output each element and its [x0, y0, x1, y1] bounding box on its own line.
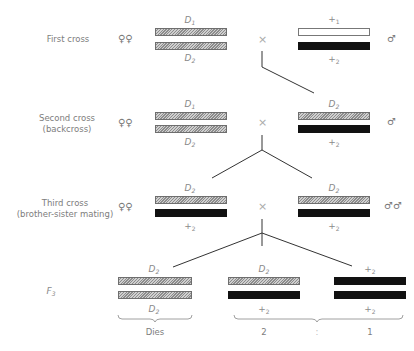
allele-bottom-left: D2 — [154, 53, 226, 66]
chromosome-bar-wildtype — [334, 277, 406, 285]
row-label-third-cross: Third cross (brother-sister mating) — [6, 198, 124, 220]
cross-symbol: × — [258, 116, 267, 129]
allele-top-right: D2 — [298, 99, 370, 112]
female-symbol: ♀♀ — [118, 117, 133, 128]
chromosome-bar-wildtype — [298, 125, 370, 133]
chromosome-bar-hatched — [298, 112, 370, 120]
allele-bottom-right: +2 — [298, 221, 370, 234]
chromosome-bar-wildtype — [155, 209, 227, 217]
f3-allele-bottom: +2 — [334, 304, 406, 317]
chromosome-bar-hatched — [155, 112, 227, 120]
chromosome-bar-hatched — [155, 28, 227, 36]
chromosome-bar-hatched — [118, 277, 192, 285]
row-label-subtext: (backcross) — [22, 124, 112, 135]
row-label-text: First cross — [47, 34, 90, 44]
f3-allele-bottom: D2 — [118, 304, 190, 317]
allele-top-right: D2 — [298, 183, 370, 196]
f3-generation-label: F3 — [36, 286, 66, 299]
female-symbol: ♀♀ — [118, 33, 133, 44]
ratio-separator: : — [312, 327, 322, 338]
f3-allele-bottom: +2 — [228, 304, 300, 317]
chromosome-bar-hatched — [118, 291, 192, 299]
line-third-right — [262, 233, 352, 266]
chromosome-bar-wildtype — [334, 291, 406, 299]
f3-outcome-dies: Dies — [118, 327, 192, 338]
female-symbol: ♀♀ — [118, 201, 133, 212]
line-second-left — [212, 150, 262, 178]
f3-allele-top: +2 — [334, 264, 406, 277]
line-third-left — [173, 233, 262, 267]
chromosome-bar-wildtype — [298, 209, 370, 217]
allele-top-left: D1 — [154, 15, 226, 28]
chromosome-bar-wildtype — [228, 291, 300, 299]
row-label-first-cross: First cross — [28, 34, 108, 45]
allele-top-left: D2 — [154, 183, 226, 196]
row-label-subtext: (brother-sister mating) — [6, 209, 124, 220]
male-symbol: ♂ — [387, 116, 396, 127]
chromosome-bar-hatched — [298, 196, 370, 204]
row-label-second-cross: Second cross (backcross) — [22, 113, 112, 135]
line-second-right — [262, 150, 312, 178]
allele-bottom-left: D2 — [154, 137, 226, 150]
f3-allele-top: D2 — [118, 264, 190, 277]
chromosome-bar-hatched — [155, 196, 227, 204]
row-label-text: Second cross — [22, 113, 112, 124]
f3-outcome-count: 1 — [334, 327, 406, 338]
f3-allele-top: D2 — [228, 264, 300, 277]
allele-bottom-right: +2 — [298, 137, 370, 150]
f3-outcome-count: 2 — [228, 327, 300, 338]
chromosome-bar-hatched — [228, 277, 300, 285]
chromosome-bar-hatched — [155, 125, 227, 133]
allele-top-left: D1 — [154, 99, 226, 112]
male-symbol: ♂♂ — [384, 200, 402, 211]
row-label-text: Third cross — [6, 198, 124, 209]
allele-top-right: +1 — [298, 14, 370, 27]
allele-bottom-left: +2 — [154, 221, 226, 234]
cross-symbol: × — [258, 33, 267, 46]
chromosome-bar-wildtype-1 — [298, 28, 370, 36]
cross-symbol: × — [258, 200, 267, 213]
male-symbol: ♂ — [387, 33, 396, 44]
chromosome-bar-hatched — [155, 42, 227, 50]
allele-bottom-right: +2 — [298, 54, 370, 67]
chromosome-bar-wildtype-2 — [298, 42, 370, 50]
